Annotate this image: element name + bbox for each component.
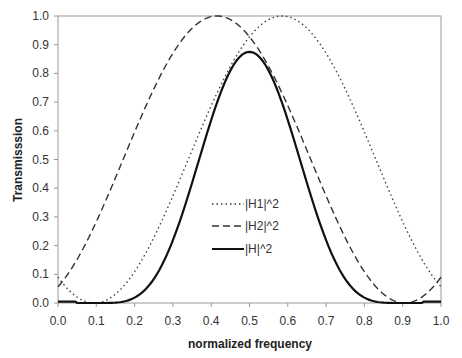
curves bbox=[58, 16, 441, 303]
y-tick-label: 0.2 bbox=[32, 239, 49, 253]
series-dashed-line bbox=[58, 16, 441, 303]
legend-h1-label: |H1|^2 bbox=[245, 197, 279, 211]
transmission-chart: 0.00.10.20.30.40.50.60.70.80.91.0 0.00.1… bbox=[0, 0, 462, 358]
legend-h-label: |H|^2 bbox=[245, 242, 273, 256]
y-axis-label: Transmisssion bbox=[11, 118, 25, 202]
x-tick-label: 0.0 bbox=[50, 314, 67, 328]
y-tick-label: 0.9 bbox=[32, 38, 49, 52]
x-tick-label: 0.8 bbox=[356, 314, 373, 328]
x-tick-label: 1.0 bbox=[433, 314, 450, 328]
legend: |H1|^2 |H2|^2 |H|^2 bbox=[212, 197, 279, 256]
y-tick-label: 0.5 bbox=[32, 153, 49, 167]
y-tick-label: 1.0 bbox=[32, 9, 49, 23]
legend-h2-label: |H2|^2 bbox=[245, 219, 279, 233]
x-tick-label: 0.5 bbox=[241, 314, 258, 328]
y-tick-label: 0.3 bbox=[32, 210, 49, 224]
y-tick-label: 0.1 bbox=[32, 267, 49, 281]
y-axis: 0.00.10.20.30.40.50.60.70.80.91.0 bbox=[32, 9, 58, 310]
plot-frame bbox=[58, 16, 441, 303]
y-tick-label: 0.0 bbox=[32, 296, 49, 310]
x-tick-label: 0.3 bbox=[165, 314, 182, 328]
y-tick-label: 0.7 bbox=[32, 95, 49, 109]
x-axis-label: normalized frequency bbox=[188, 337, 312, 351]
x-tick-label: 0.9 bbox=[394, 314, 411, 328]
y-tick-label: 0.4 bbox=[32, 181, 49, 195]
x-tick-label: 0.1 bbox=[88, 314, 105, 328]
series-dotted-line bbox=[58, 16, 441, 303]
x-tick-label: 0.6 bbox=[279, 314, 296, 328]
x-axis: 0.00.10.20.30.40.50.60.70.80.91.0 bbox=[50, 303, 450, 328]
y-tick-label: 0.6 bbox=[32, 124, 49, 138]
x-tick-label: 0.2 bbox=[126, 314, 143, 328]
y-tick-label: 0.8 bbox=[32, 66, 49, 80]
x-tick-label: 0.4 bbox=[203, 314, 220, 328]
x-tick-label: 0.7 bbox=[318, 314, 335, 328]
